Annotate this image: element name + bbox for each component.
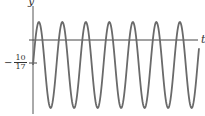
y-axis-label: y xyxy=(28,0,34,7)
plot-area xyxy=(0,0,205,116)
t-axis-label: t xyxy=(201,34,205,45)
sinusoid-curve xyxy=(33,22,199,108)
minus-sign: − xyxy=(4,57,12,68)
fraction-denominator: 17 xyxy=(15,63,25,71)
y-tick-label: − 10 17 xyxy=(4,54,27,71)
fraction: 10 17 xyxy=(14,54,26,71)
